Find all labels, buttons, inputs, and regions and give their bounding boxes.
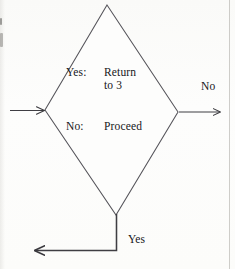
scanned-flowchart-page: Yes:Returnto 3 No:Proceed No Yes [0,0,235,269]
connector-outgoing-bottom [35,214,117,251]
edge-label-no: No [201,80,215,93]
edge-label-yes: Yes [128,233,145,246]
no-branch-lead: No: [66,120,104,133]
yes-branch-value-line-1: Return [104,66,136,78]
diamond-text-yes-branch: Yes:Returnto 3 [66,66,136,92]
decision-diamond-shape [45,5,178,215]
yes-branch-value-line-2: to 3 [66,79,136,92]
no-branch-value: Proceed [104,120,142,132]
flowchart-diagram [0,0,235,269]
diamond-text-no-branch: No:Proceed [66,120,142,133]
yes-branch-lead: Yes: [66,66,104,79]
